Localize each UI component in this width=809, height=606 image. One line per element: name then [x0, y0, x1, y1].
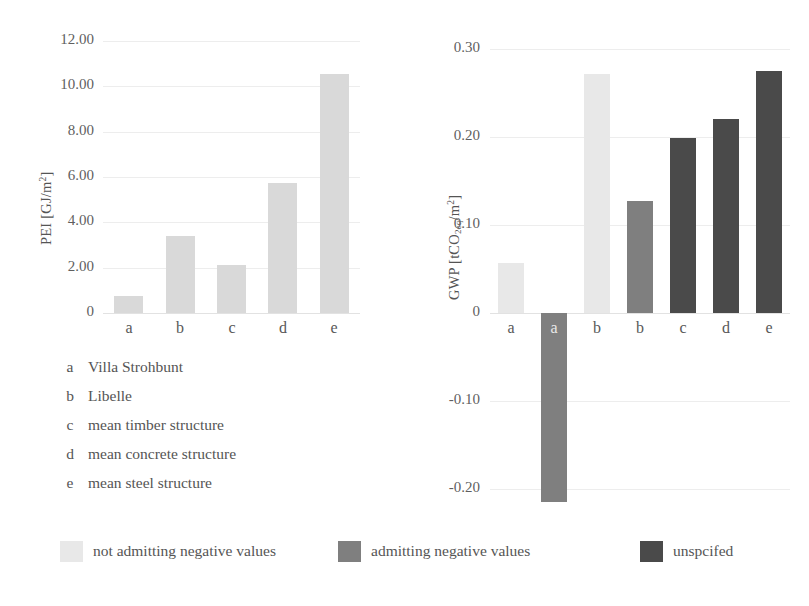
legend-label: unspcifed — [673, 538, 733, 564]
y-tick-label: 6.00 — [36, 167, 94, 184]
gridline — [103, 313, 360, 314]
x-tick-label: c — [665, 319, 701, 337]
gridline — [490, 313, 790, 314]
bar — [166, 236, 195, 313]
key-item: emean steel structure — [62, 474, 362, 503]
bar — [320, 74, 349, 313]
x-tick-label: b — [579, 319, 615, 337]
x-tick-label: c — [212, 319, 252, 337]
y-tick-label: 0.20 — [418, 127, 480, 144]
legend-swatch — [338, 541, 361, 562]
key-item-label: Libelle — [88, 387, 132, 405]
gridline — [103, 41, 360, 42]
y-tick-label: 0 — [418, 303, 480, 320]
key-item-letter: c — [62, 416, 78, 434]
bar — [756, 71, 782, 313]
x-tick-label: d — [263, 319, 303, 337]
figure-root: PEI [GJ/m2] 02.004.006.008.0010.0012.00 … — [0, 0, 809, 606]
y-tick-label: 0.10 — [418, 215, 480, 232]
y-tick-label: -0.20 — [418, 479, 480, 496]
x-tick-label: b — [160, 319, 200, 337]
y-tick-label: 0 — [36, 303, 94, 320]
y-tick-label: -0.10 — [418, 391, 480, 408]
abbreviation-key: aVilla StrohbuntbLibellecmean timber str… — [62, 358, 362, 503]
x-tick-label: a — [536, 319, 572, 337]
bar — [498, 263, 524, 313]
key-item-label: mean steel structure — [88, 474, 212, 492]
key-item-letter: d — [62, 445, 78, 463]
chart-legend: not admitting negative valuesadmitting n… — [60, 538, 760, 572]
key-item-letter: a — [62, 358, 78, 376]
gridline — [490, 401, 790, 402]
y-tick-label: 8.00 — [36, 122, 94, 139]
x-tick-label: e — [751, 319, 787, 337]
bar — [713, 119, 739, 313]
bar — [541, 313, 567, 502]
bar — [670, 138, 696, 313]
gwp-y-axis-title: GWP [tCO2eq/m2] — [446, 195, 463, 300]
legend-swatch — [60, 541, 83, 562]
bar — [627, 201, 653, 313]
key-item: bLibelle — [62, 387, 362, 416]
x-tick-label: a — [109, 319, 149, 337]
x-tick-label: e — [314, 319, 354, 337]
key-item: aVilla Strohbunt — [62, 358, 362, 387]
legend-label: admitting negative values — [371, 538, 530, 564]
gridline — [490, 49, 790, 50]
key-item: dmean concrete structure — [62, 445, 362, 474]
chart-gwp: GWP [tCO2eq/m2] -0.20-0.1000.100.200.30 … — [400, 0, 809, 530]
key-item-label: mean timber structure — [88, 416, 224, 434]
key-item-label: mean concrete structure — [88, 445, 236, 463]
x-tick-label: a — [493, 319, 529, 337]
bar — [268, 183, 297, 313]
key-item-letter: e — [62, 474, 78, 492]
y-tick-label: 4.00 — [36, 212, 94, 229]
bar — [217, 265, 246, 313]
key-item-label: Villa Strohbunt — [88, 358, 183, 376]
y-tick-label: 12.00 — [36, 31, 94, 48]
chart-pei: PEI [GJ/m2] 02.004.006.008.0010.0012.00 … — [0, 0, 400, 345]
x-tick-label: d — [708, 319, 744, 337]
bar — [584, 74, 610, 313]
legend-label: not admitting negative values — [93, 538, 276, 564]
y-tick-label: 2.00 — [36, 258, 94, 275]
x-tick-label: b — [622, 319, 658, 337]
gridline — [490, 137, 790, 138]
y-tick-label: 0.30 — [418, 39, 480, 56]
bar — [114, 296, 143, 313]
y-tick-label: 10.00 — [36, 76, 94, 93]
legend-swatch — [640, 541, 663, 562]
key-item: cmean timber structure — [62, 416, 362, 445]
key-item-letter: b — [62, 387, 78, 405]
gridline — [490, 489, 790, 490]
